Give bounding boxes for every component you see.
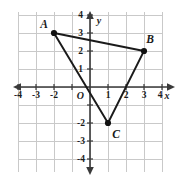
y-tick-label: 1 (78, 64, 83, 74)
coordinate-plane-svg: -4 -3 -2 1 2 3 4 4 3 2 1 -2 -3 -4 O x y (0, 0, 178, 178)
x-tick-label: -3 (32, 90, 40, 100)
y-tick-label: 2 (78, 46, 83, 56)
y-tick-label: 3 (78, 28, 83, 38)
x-tick-label: -4 (14, 90, 22, 100)
x-axis-label: x (164, 90, 170, 101)
y-tick-label: -2 (77, 118, 85, 128)
coordinate-plane-figure: -4 -3 -2 1 2 3 4 4 3 2 1 -2 -3 -4 O x y (0, 0, 178, 178)
triangle-outline (54, 33, 144, 123)
x-tick-label: 1 (106, 90, 111, 100)
vertex-point-c (105, 120, 111, 126)
vertex-point-a (51, 30, 57, 36)
y-tick-label: -3 (77, 136, 85, 146)
vertex-label-a: A (39, 18, 48, 30)
vertex-label-c: C (112, 128, 120, 140)
y-axis-label: y (96, 15, 102, 26)
vertex-label-b: B (145, 33, 154, 45)
x-tick-label: -2 (50, 90, 58, 100)
triangle-shape (54, 33, 144, 123)
y-axis-arrow-down (86, 167, 94, 175)
x-tick-label: 4 (158, 90, 163, 100)
y-tick-label: -4 (77, 154, 85, 164)
y-tick-label: 4 (78, 10, 83, 20)
origin-label: O (77, 90, 84, 101)
vertices (51, 30, 147, 126)
vertex-point-b (141, 48, 147, 54)
x-tick-label: 3 (142, 90, 147, 100)
